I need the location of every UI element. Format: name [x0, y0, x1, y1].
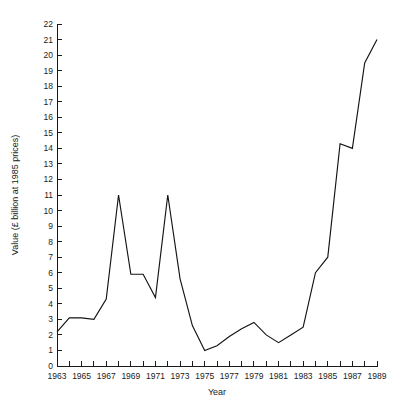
y-axis-tick-label: 4 — [48, 299, 53, 309]
y-axis-tick-label: 18 — [44, 81, 54, 91]
y-axis-tick-label: 16 — [44, 112, 54, 122]
y-axis-tick-label: 6 — [48, 268, 53, 278]
y-axis-tick-label: 21 — [44, 35, 54, 45]
y-axis-tick-label: 19 — [44, 66, 54, 76]
x-axis-tick-label: 1989 — [368, 371, 387, 381]
axis-lines — [57, 24, 378, 366]
x-axis-tick-label: 1965 — [72, 371, 91, 381]
y-axis-tick-label: 10 — [44, 206, 54, 216]
y-axis-title: Value (£ billion at 1985 prices) — [10, 135, 20, 255]
y-axis-tick-label: 0 — [48, 361, 53, 371]
y-axis-tick-label: 15 — [44, 128, 54, 138]
data-series-group — [57, 40, 377, 351]
x-axis-tick-label: 1985 — [318, 371, 337, 381]
x-axis-tick-label: 1967 — [97, 371, 116, 381]
line-chart: 012345678910111213141516171819202122 196… — [0, 0, 395, 409]
y-axis-tick-label: 22 — [44, 19, 54, 29]
x-axis-tick-label: 1973 — [171, 371, 190, 381]
y-axis-tick-label: 14 — [44, 143, 54, 153]
x-axis-tick-label: 1963 — [48, 371, 67, 381]
x-axis-title: Year — [208, 387, 226, 397]
y-axis-tick-labels: 012345678910111213141516171819202122 — [44, 19, 54, 371]
x-axis-tick-label: 1983 — [294, 371, 313, 381]
y-axis-tick-label: 3 — [48, 314, 53, 324]
x-axis-tick-label: 1979 — [244, 371, 263, 381]
y-axis-tick-label: 2 — [48, 330, 53, 340]
x-axis-tick-label: 1987 — [343, 371, 362, 381]
data-series-line — [57, 40, 377, 351]
x-axis-tick-label: 1981 — [269, 371, 288, 381]
x-axis-tick-label: 1975 — [195, 371, 214, 381]
x-axis-tick-label: 1977 — [220, 371, 239, 381]
y-axis-tick-label: 5 — [48, 283, 53, 293]
y-axis-tick-label: 9 — [48, 221, 53, 231]
x-axis-ticks — [57, 361, 377, 366]
y-axis-tick-label: 1 — [48, 345, 53, 355]
y-axis-tick-label: 12 — [44, 174, 54, 184]
x-axis-tick-labels: 1963196519671969197119731975197719791981… — [48, 371, 387, 381]
y-axis-tick-label: 7 — [48, 252, 53, 262]
y-axis-tick-label: 8 — [48, 237, 53, 247]
x-axis-tick-label: 1971 — [146, 371, 165, 381]
y-axis-tick-label: 20 — [44, 50, 54, 60]
x-axis-tick-label: 1969 — [121, 371, 140, 381]
y-axis-tick-label: 11 — [44, 190, 53, 200]
chart-container: 012345678910111213141516171819202122 196… — [0, 0, 395, 409]
y-axis-tick-label: 17 — [44, 97, 54, 107]
y-axis-tick-label: 13 — [44, 159, 54, 169]
y-axis-ticks — [57, 24, 62, 366]
